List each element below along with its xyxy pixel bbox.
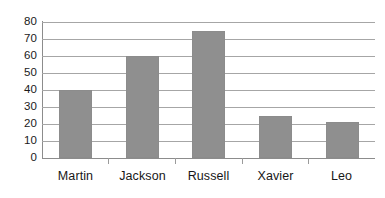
y-tick-label-70: 70 [7,33,37,45]
x-axis-tick-4 [308,158,309,164]
y-tick-label-80: 80 [7,16,37,28]
y-tick-label-10: 10 [7,135,37,147]
x-tick-label-leo: Leo [308,168,375,184]
bar-jackson[interactable] [126,56,159,158]
bar-martin[interactable] [59,90,92,158]
y-tick-label-30: 30 [7,101,37,113]
x-axis-tick-3 [242,158,243,164]
x-tick-label-russell: Russell [175,168,242,184]
x-tick-label-jackson: Jackson [109,168,176,184]
bar-xavier[interactable] [259,116,292,159]
x-axis-tick-labels: Martin Jackson Russell Xavier Leo [42,168,375,190]
y-axis-tick-labels: 80 70 60 50 40 30 20 10 0 [4,0,37,198]
plot-area [42,22,375,158]
y-tick-label-60: 60 [7,50,37,62]
y-tick-label-0: 0 [7,152,37,164]
x-axis-tick-2 [175,158,176,164]
bar-russell[interactable] [192,31,225,159]
x-axis-tick-1 [108,158,109,164]
x-tick-label-xavier: Xavier [242,168,309,184]
y-tick-label-40: 40 [7,84,37,96]
bar-leo[interactable] [326,122,359,158]
gridline-80 [42,22,375,23]
gridline-0-baseline [42,158,375,159]
y-tick-label-20: 20 [7,118,37,130]
x-tick-label-martin: Martin [42,168,109,184]
y-tick-label-50: 50 [7,67,37,79]
bar-chart: 80 70 60 50 40 30 20 10 0 Martin Jackson [0,0,385,198]
